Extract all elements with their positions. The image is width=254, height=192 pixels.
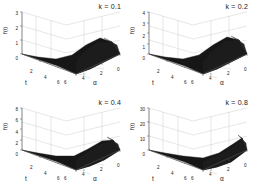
subplot-k-0-1: k = 0.1 f(t) 3 2 1 0 2 4 6 6 4 2 0 t α — [0, 0, 127, 96]
z-tick: 1 — [8, 42, 18, 47]
z-tick: 0 — [8, 153, 18, 158]
subplot-title: k = 0.2 — [225, 3, 248, 10]
z-axis-label: f(t) — [129, 27, 135, 34]
z-tick: 2 — [8, 142, 18, 147]
z-tick: 0 — [135, 57, 145, 62]
axes-3d — [20, 108, 122, 178]
z-tick: 10 — [132, 138, 145, 143]
z-tick: 2 — [8, 27, 18, 32]
z-tick: 4 — [8, 131, 18, 136]
subplot-k-0-4: k = 0.4 f(t) 8 6 4 2 0 2 4 6 6 4 2 0 t α — [0, 96, 127, 192]
figure-panel-grid: k = 0.1 f(t) 3 2 1 0 2 4 6 6 4 2 0 t α — [0, 0, 254, 191]
subplot-title: k = 0.8 — [225, 99, 248, 106]
z-tick: 3 — [8, 12, 18, 17]
axes-3d — [147, 12, 249, 82]
z-tick: 20 — [132, 123, 145, 128]
z-tick: 8 — [8, 108, 18, 113]
subplot-k-0-2: k = 0.2 f(t) 4 3 2 1 0 2 4 6 6 4 2 0 t α — [127, 0, 254, 96]
z-tick: 4 — [135, 12, 145, 17]
z-tick: 30 — [132, 108, 145, 113]
subplot-title: k = 0.4 — [98, 99, 121, 106]
z-tick: 2 — [135, 35, 145, 40]
axes-3d — [20, 12, 122, 82]
z-tick: 3 — [135, 23, 145, 28]
z-tick: 0 — [8, 57, 18, 62]
subplot-title: k = 0.1 — [98, 3, 121, 10]
subplot-k-0-8: k = 0.8 f(t) 30 20 10 0 2 4 6 6 4 2 0 t … — [127, 96, 254, 192]
axes-3d — [147, 108, 249, 178]
z-axis-label: f(t) — [2, 122, 8, 129]
z-tick: 0 — [132, 153, 145, 158]
z-tick: 1 — [135, 46, 145, 51]
z-tick: 6 — [8, 119, 18, 124]
